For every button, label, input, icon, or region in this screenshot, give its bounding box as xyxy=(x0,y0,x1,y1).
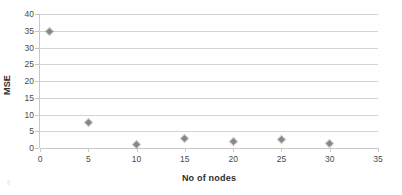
y-tick-5 xyxy=(35,131,39,132)
y-tick-label-5: 5 xyxy=(8,127,34,136)
x-tick-0 xyxy=(40,148,41,152)
y-tick-35 xyxy=(35,31,39,32)
gridline-y-20 xyxy=(40,81,378,82)
data-point xyxy=(133,141,140,148)
x-tick-label-20: 20 xyxy=(218,155,248,164)
scatter-chart-figure: MSE 0510152025303540 05101520253035 No o… xyxy=(0,0,402,195)
y-tick-label-30: 30 xyxy=(8,44,34,53)
gridline-y-0 xyxy=(40,148,378,149)
x-tick-label-0: 0 xyxy=(25,155,55,164)
y-tick-20 xyxy=(35,81,39,82)
y-tick-label-0: 0 xyxy=(8,144,34,153)
gridline-y-35 xyxy=(40,31,378,32)
x-axis-tick-labels: 05101520253035 xyxy=(40,155,378,167)
x-tick-label-10: 10 xyxy=(122,155,152,164)
y-tick-label-40: 40 xyxy=(8,10,34,19)
data-point xyxy=(85,119,92,126)
y-tick-40 xyxy=(35,14,39,15)
y-tick-label-10: 10 xyxy=(8,111,34,120)
x-tick-label-5: 5 xyxy=(73,155,103,164)
y-tick-25 xyxy=(35,64,39,65)
y-tick-label-35: 35 xyxy=(8,27,34,36)
gridline-y-5 xyxy=(40,131,378,132)
x-tick-15 xyxy=(185,148,186,152)
data-point xyxy=(181,135,188,142)
y-tick-30 xyxy=(35,48,39,49)
y-tick-15 xyxy=(35,98,39,99)
plot-area xyxy=(40,14,378,148)
y-tick-label-20: 20 xyxy=(8,77,34,86)
x-tick-35 xyxy=(378,148,379,152)
gridline-y-40 xyxy=(40,14,378,15)
scan-artifact xyxy=(7,180,10,185)
x-tick-25 xyxy=(281,148,282,152)
gridline-y-10 xyxy=(40,115,378,116)
data-point xyxy=(230,138,237,145)
data-point xyxy=(46,28,53,35)
x-tick-5 xyxy=(88,148,89,152)
data-point xyxy=(278,136,285,143)
gridline-y-15 xyxy=(40,98,378,99)
gridline-y-25 xyxy=(40,64,378,65)
x-tick-label-25: 25 xyxy=(266,155,296,164)
y-tick-10 xyxy=(35,115,39,116)
y-tick-label-15: 15 xyxy=(8,94,34,103)
x-tick-20 xyxy=(233,148,234,152)
y-axis-tick-labels: 0510152025303540 xyxy=(6,14,34,148)
x-tick-label-30: 30 xyxy=(315,155,345,164)
x-tick-label-35: 35 xyxy=(363,155,393,164)
x-axis-title: No of nodes xyxy=(40,173,378,183)
x-tick-label-15: 15 xyxy=(170,155,200,164)
data-point xyxy=(326,140,333,147)
gridline-y-30 xyxy=(40,48,378,49)
y-tick-label-25: 25 xyxy=(8,60,34,69)
y-tick-0 xyxy=(35,148,39,149)
x-tick-30 xyxy=(330,148,331,152)
